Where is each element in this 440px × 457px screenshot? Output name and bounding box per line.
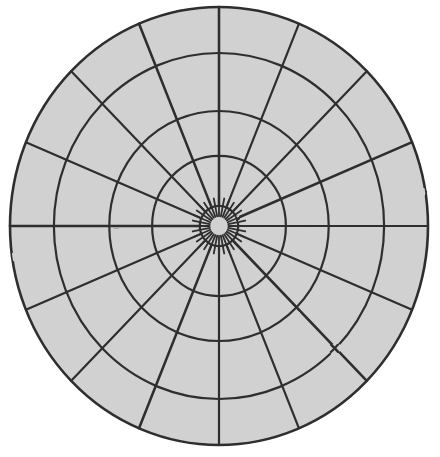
wheel-body bbox=[10, 7, 428, 445]
figure-root bbox=[0, 0, 440, 457]
polar-grid-diagram bbox=[0, 0, 440, 457]
